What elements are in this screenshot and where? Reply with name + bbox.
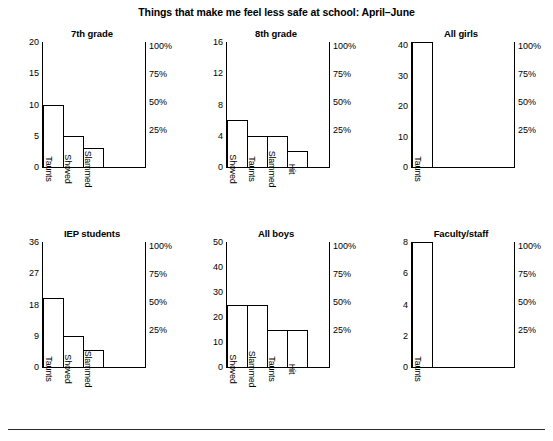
y-tick-label-right-percent: 75% <box>329 69 351 79</box>
y-tick-label-left: 8 <box>183 100 227 110</box>
y-tick-label-left: 27 <box>0 268 43 278</box>
y-tick-label-right-percent: 100% <box>329 41 356 51</box>
y-tick-label-right-percent: 25% <box>145 325 167 335</box>
y-tick-label-left: 18 <box>0 300 43 310</box>
y-tick-label-left: 20 <box>0 37 43 47</box>
y-tick-label-right-percent: 100% <box>514 241 541 251</box>
x-axis-labels: ShovedTauntsSlammedHit <box>227 167 308 225</box>
y-tick-label-right-percent: 75% <box>329 269 351 279</box>
y-tick-label-right-percent: 25% <box>145 125 167 135</box>
y-tick-label-left: 10 <box>368 132 412 142</box>
y-tick-label-left: 20 <box>368 101 412 111</box>
y-tick-label-left: 0 <box>0 162 43 172</box>
x-tick-label: Slammed <box>83 167 104 225</box>
y-tick-label-left: 4 <box>368 300 412 310</box>
y-tick-label-left: 16 <box>183 37 227 47</box>
x-tick-label: Shoved <box>63 167 84 225</box>
chart-panel-all-girls: All girls 010203040 25%50%75%100% Taunts <box>369 28 553 228</box>
y-tick-label-right-percent: 75% <box>514 269 536 279</box>
plot-area: 010203040 25%50%75%100% Taunts <box>411 42 515 168</box>
x-tick-label: Slammed <box>267 167 288 225</box>
x-axis-labels: Taunts <box>412 367 433 425</box>
x-axis-labels: Taunts <box>412 167 433 225</box>
x-tick-label: Slammed <box>83 367 104 425</box>
y-tick-label-left: 10 <box>183 337 227 347</box>
y-tick-label-right-percent: 50% <box>145 297 167 307</box>
bar-group <box>412 42 433 167</box>
x-tick-label: Taunts <box>412 167 433 225</box>
x-tick-label: Taunts <box>412 367 433 425</box>
y-tick-label-left: 0 <box>0 362 43 372</box>
y-tick-label-left: 6 <box>368 268 412 278</box>
footer-divider <box>8 429 545 430</box>
bar-group <box>43 242 104 367</box>
chart-panel-8th-grade: 8th grade 0481216 25%50%75%100% ShovedTa… <box>184 28 368 228</box>
x-axis-labels: TauntsShovedSlammed <box>43 367 104 425</box>
bar-group <box>227 242 308 367</box>
y-tick-label-right-percent: 50% <box>514 97 536 107</box>
x-tick-label: Taunts <box>267 367 288 425</box>
y-tick-label-left: 2 <box>368 331 412 341</box>
y-tick-label-left: 40 <box>368 40 412 50</box>
chart-panel-all-boys: All boys 01020304050 25%50%75%100% Shove… <box>184 228 368 428</box>
y-tick-label-left: 30 <box>368 71 412 81</box>
x-axis-labels: ShovedSlammedTauntsHit <box>227 367 308 425</box>
y-tick-label-left: 20 <box>183 312 227 322</box>
y-tick-label-left: 0 <box>368 362 412 372</box>
bar <box>412 42 433 167</box>
y-tick-label-left: 50 <box>183 237 227 247</box>
plot-area: 01020304050 25%50%75%100% ShovedSlammedT… <box>226 242 330 368</box>
chart-panel-7th-grade: 7th grade 05101520 25%50%75%100% TauntsS… <box>0 28 184 228</box>
y-tick-label-left: 0 <box>183 362 227 372</box>
y-tick-label-right-percent: 100% <box>329 241 356 251</box>
plot-area: 02468 25%50%75%100% Taunts <box>411 242 515 368</box>
plot-area: 0481216 25%50%75%100% ShovedTauntsSlamme… <box>226 42 330 168</box>
y-tick-label-left: 10 <box>0 100 43 110</box>
bar <box>287 330 308 368</box>
plot-area: 09182736 25%50%75%100% TauntsShovedSlamm… <box>42 242 146 368</box>
panel-title: All girls <box>369 28 553 39</box>
chart-panel-iep-students: IEP students 09182736 25%50%75%100% Taun… <box>0 228 184 428</box>
y-tick-label-left: 4 <box>183 131 227 141</box>
y-tick-label-left: 0 <box>368 162 412 172</box>
x-tick-label: Shoved <box>227 367 248 425</box>
y-tick-label-right-percent: 50% <box>329 97 351 107</box>
y-tick-label-right-percent: 25% <box>329 125 351 135</box>
y-tick-label-right-percent: 100% <box>514 41 541 51</box>
y-tick-label-left: 40 <box>183 262 227 272</box>
y-tick-label-right-percent: 75% <box>145 69 167 79</box>
plot-area: 05101520 25%50%75%100% TauntsShovedSlamm… <box>42 42 146 168</box>
y-tick-label-right-percent: 50% <box>329 297 351 307</box>
y-tick-label-right-percent: 100% <box>145 41 172 51</box>
y-tick-label-left: 9 <box>0 331 43 341</box>
bar <box>412 242 433 367</box>
x-tick-label: Taunts <box>43 167 64 225</box>
x-tick-label: Hit <box>287 367 308 425</box>
y-tick-label-left: 0 <box>183 162 227 172</box>
y-tick-label-right-percent: 75% <box>514 69 536 79</box>
y-tick-label-left: 12 <box>183 68 227 78</box>
y-tick-label-right-percent: 25% <box>514 325 536 335</box>
x-tick-label: Shoved <box>63 367 84 425</box>
x-tick-label: Taunts <box>247 167 268 225</box>
y-tick-label-right-percent: 100% <box>145 241 172 251</box>
y-tick-label-right-percent: 25% <box>329 325 351 335</box>
figure-title: Things that make me feel less safe at sc… <box>0 6 553 18</box>
chart-panel-faculty-staff: Faculty/staff 02468 25%50%75%100% Taunts <box>369 228 553 428</box>
y-tick-label-right-percent: 25% <box>514 125 536 135</box>
y-tick-label-right-percent: 75% <box>145 269 167 279</box>
bar-group <box>412 242 433 367</box>
x-tick-label: Hit <box>287 167 308 225</box>
x-tick-label: Taunts <box>43 367 64 425</box>
x-axis-labels: TauntsShovedSlammed <box>43 167 104 225</box>
bar-group <box>43 42 104 167</box>
y-tick-label-left: 8 <box>368 237 412 247</box>
figure-root: Things that make me feel less safe at sc… <box>0 0 553 441</box>
y-tick-label-left: 30 <box>183 287 227 297</box>
y-tick-label-left: 15 <box>0 68 43 78</box>
bar-group <box>227 42 308 167</box>
x-tick-label: Shoved <box>227 167 248 225</box>
y-tick-label-left: 36 <box>0 237 43 247</box>
x-tick-label: Slammed <box>247 367 268 425</box>
y-tick-label-right-percent: 50% <box>145 97 167 107</box>
